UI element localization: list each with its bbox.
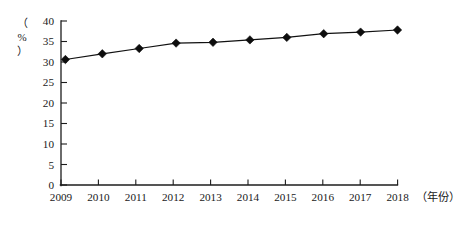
y-tick-label: 20 bbox=[43, 97, 55, 109]
x-axis-unit-label: （年份） bbox=[416, 190, 460, 203]
data-point-marker bbox=[320, 30, 328, 38]
x-tick-labels: 2009 2010 2011 2012 2013 2014 2015 2016 … bbox=[50, 191, 409, 203]
x-tick-label: 2018 bbox=[386, 191, 409, 203]
y-tick-label: 10 bbox=[43, 138, 55, 150]
series-markers bbox=[61, 26, 402, 64]
y-tick-marks bbox=[61, 21, 67, 185]
data-point-marker bbox=[172, 39, 180, 47]
data-point-marker bbox=[135, 44, 143, 52]
data-point-marker bbox=[98, 50, 106, 58]
y-tick-label: 40 bbox=[43, 15, 55, 27]
y-tick-label: 0 bbox=[48, 179, 54, 191]
data-point-marker bbox=[393, 26, 401, 34]
y-tick-label: 30 bbox=[43, 56, 55, 68]
y-unit-char-percent: % bbox=[17, 31, 26, 43]
data-point-marker bbox=[246, 36, 254, 44]
x-tick-label: 2016 bbox=[312, 191, 335, 203]
data-point-marker bbox=[356, 28, 364, 36]
x-tick-label: 2014 bbox=[237, 191, 260, 203]
y-tick-labels: 40 35 30 25 20 15 10 5 0 bbox=[43, 15, 55, 191]
y-unit-char-open: （ bbox=[17, 17, 28, 29]
x-tick-label: 2012 bbox=[162, 191, 184, 203]
y-tick-label: 15 bbox=[43, 117, 55, 129]
y-unit-char-close: ） bbox=[17, 45, 28, 57]
y-tick-label: 5 bbox=[48, 159, 54, 171]
x-tick-label: 2011 bbox=[125, 191, 147, 203]
x-tick-label: 2013 bbox=[199, 191, 222, 203]
line-chart: （ % ） 40 35 30 25 20 15 10 5 0 bbox=[0, 0, 460, 229]
x-tick-label: 2009 bbox=[50, 191, 73, 203]
chart-figure: （ % ） 40 35 30 25 20 15 10 5 0 bbox=[0, 0, 460, 229]
x-tick-label: 2015 bbox=[274, 191, 297, 203]
x-tick-marks bbox=[61, 180, 398, 186]
data-point-marker bbox=[283, 33, 291, 41]
y-axis-unit-label: （ % ） bbox=[17, 17, 28, 57]
x-tick-label: 2017 bbox=[349, 191, 372, 203]
data-point-marker bbox=[209, 38, 217, 46]
y-tick-label: 35 bbox=[43, 35, 55, 47]
x-tick-label: 2010 bbox=[87, 191, 110, 203]
series-line bbox=[65, 30, 397, 60]
y-tick-label: 25 bbox=[43, 76, 55, 88]
